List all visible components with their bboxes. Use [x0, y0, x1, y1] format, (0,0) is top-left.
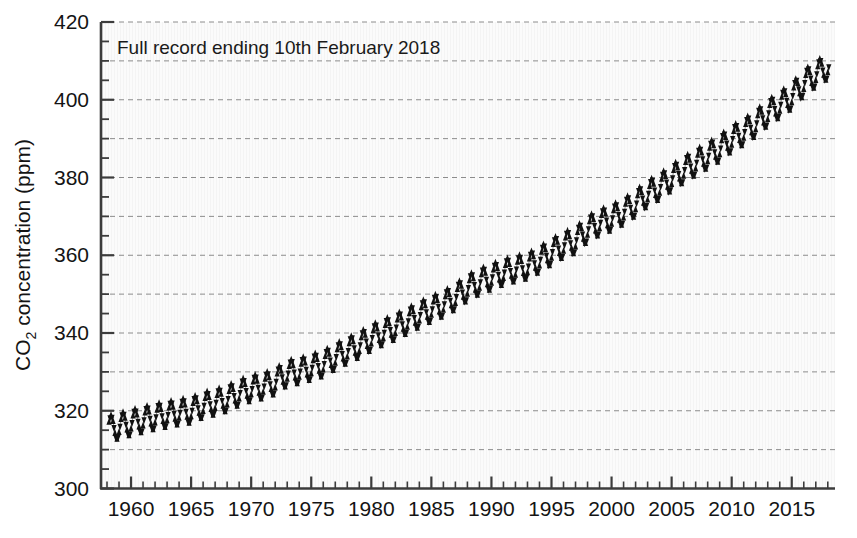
y-tick-label: 300 [54, 477, 89, 500]
x-tick-label: 1995 [528, 497, 575, 520]
x-tick-label: 1990 [468, 497, 515, 520]
x-tick-label: 1960 [108, 497, 155, 520]
y-tick-label: 420 [54, 10, 89, 33]
co2-chart-figure: 300320340360380400420 196019651970197519… [0, 0, 857, 538]
x-tick-label: 1980 [348, 497, 395, 520]
x-tick-label: 1975 [288, 497, 335, 520]
x-tick-label: 1985 [408, 497, 455, 520]
y-tick-label: 400 [54, 88, 89, 111]
y-tick-label: 360 [54, 243, 89, 266]
y-tick-label: 320 [54, 399, 89, 422]
x-tick-label: 2010 [708, 497, 755, 520]
y-axis-label-subscript: 2 [23, 331, 39, 339]
x-tick-label: 1965 [168, 497, 215, 520]
chart-annotation: Full record ending 10th February 2018 [117, 37, 440, 58]
x-tick-label: 2005 [648, 497, 695, 520]
x-tick-label: 1970 [228, 497, 275, 520]
y-tick-label: 380 [54, 166, 89, 189]
chart-canvas: 300320340360380400420 196019651970197519… [0, 0, 857, 538]
y-axis-label-post: concentration (ppm) [11, 139, 34, 332]
x-tick-label: 2015 [768, 497, 815, 520]
x-tick-label: 2000 [588, 497, 635, 520]
y-tick-label: 340 [54, 321, 89, 344]
y-axis-label-pre: CO [11, 339, 34, 371]
